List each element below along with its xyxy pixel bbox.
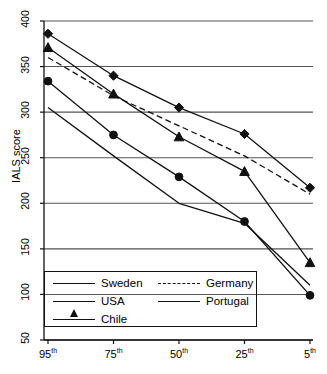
legend-item-chile: Chile	[53, 313, 127, 325]
datapoint-usa-25th	[240, 167, 250, 176]
ials-score-line-chart: IALS score 50100150200250300350400 Swede…	[0, 0, 327, 374]
datapoint-portugal-75th	[110, 131, 118, 139]
legend-item-portugal: Portugal	[158, 295, 249, 307]
legend-label-chile: Chile	[101, 313, 127, 325]
x-tick-label-95th: 95th	[23, 347, 73, 360]
series-line-portugal	[48, 81, 310, 295]
legend-label-sweden: Sweden	[101, 277, 143, 289]
legend-label-germany: Germany	[206, 277, 253, 289]
x-tick-label-5th: 5th	[285, 347, 327, 360]
datapoint-sweden-75th	[109, 71, 118, 80]
datapoint-portugal-25th	[241, 218, 249, 226]
legend-label-portugal: Portugal	[206, 295, 249, 307]
x-tick-label-25th: 25th	[220, 347, 270, 360]
datapoint-usa-50th	[174, 132, 184, 141]
datapoint-sweden-95th	[43, 29, 52, 38]
legend-item-sweden: Sweden	[53, 277, 143, 289]
x-tick-label-75th: 75th	[89, 347, 139, 360]
datapoint-portugal-95th	[44, 77, 52, 85]
datapoint-sweden-50th	[174, 103, 183, 112]
datapoint-portugal-5th	[306, 291, 314, 299]
legend-swatch-germany	[158, 277, 200, 289]
legend: Sweden Germany USA Portugal Chile	[44, 271, 257, 327]
legend-label-usa: USA	[101, 295, 125, 307]
datapoint-portugal-50th	[175, 173, 183, 181]
legend-swatch-portugal	[158, 295, 200, 307]
x-tick-label-50th: 50th	[154, 347, 204, 360]
legend-item-germany: Germany	[158, 277, 253, 289]
legend-swatch-sweden	[53, 277, 95, 289]
datapoint-usa-5th	[305, 258, 315, 267]
legend-item-usa: USA	[53, 295, 125, 307]
legend-swatch-usa	[53, 295, 95, 307]
legend-swatch-chile	[53, 313, 95, 325]
